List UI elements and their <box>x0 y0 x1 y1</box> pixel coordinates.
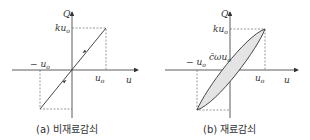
label-ku-o: kuo <box>55 23 70 34</box>
y-axis-label: Q <box>221 9 229 19</box>
label-c-omega-u-o: c̄ωuo <box>209 52 231 63</box>
load-line <box>40 28 106 109</box>
y-axis-label: Q <box>63 9 71 19</box>
diagram-canvas: Q u kuo uo − uo (a) 비재료감쇠 Q u kuo c̄ωuo … <box>0 0 310 140</box>
label-neg-u-o: − uo <box>30 59 50 70</box>
x-axis-label: u <box>126 75 132 85</box>
label-u-o: uo <box>255 73 265 84</box>
caption-b: (b) 재료감쇠 <box>203 124 256 135</box>
hysteresis-loop <box>197 29 265 110</box>
label-u-o: uo <box>95 73 105 84</box>
caption-a: (a) 비재료감쇠 <box>36 124 98 135</box>
label-neg-u-o: − uo <box>186 57 206 68</box>
label-ku-o: kuo <box>213 24 228 35</box>
arrow-up-icon <box>83 50 87 54</box>
panel-b-material-damping: Q u kuo c̄ωuo uo − uo (b) 재료감쇠 <box>165 9 298 135</box>
x-axis-label: u <box>284 75 290 85</box>
panel-a-non-material-damping: Q u kuo uo − uo (a) 비재료감쇠 <box>12 9 138 135</box>
